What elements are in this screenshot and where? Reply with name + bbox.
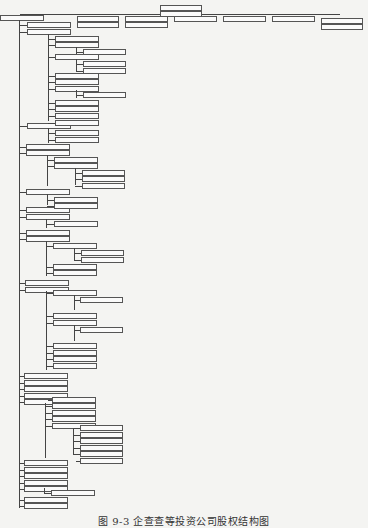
level2-node-box <box>54 203 98 209</box>
level3-connector <box>73 435 80 436</box>
branch-connector <box>19 25 27 26</box>
level3-connector <box>76 95 83 96</box>
level3-connector <box>76 71 83 72</box>
branch-node-box <box>27 29 71 35</box>
level3-connector <box>75 173 82 174</box>
level2-node-box <box>53 363 97 369</box>
header-node-box <box>321 24 363 30</box>
branch-connector <box>19 217 26 218</box>
level2-trunk-line <box>76 90 77 98</box>
level3-connector <box>76 64 83 65</box>
branch-node-box <box>24 386 68 392</box>
level2-connector <box>48 39 55 40</box>
level2-connector <box>48 140 55 141</box>
level2-node-box <box>52 416 96 422</box>
branch-connector <box>19 192 26 193</box>
level2-node-box <box>55 106 99 112</box>
branch-connector <box>19 239 26 240</box>
level2-node-box <box>55 79 99 85</box>
level3-node-box <box>83 49 126 55</box>
header-node-box <box>174 16 217 22</box>
branch-node-box <box>25 280 69 286</box>
level3-node-box <box>80 297 123 303</box>
level2-connector <box>48 89 55 90</box>
branch-node-box <box>26 189 70 195</box>
level2-node-box <box>54 163 98 169</box>
level2-connector <box>47 206 54 207</box>
level2-node-box <box>53 343 97 349</box>
level3-node-box <box>82 183 125 189</box>
level2-node-box <box>53 356 97 362</box>
level2-connector <box>48 123 55 124</box>
level2-connector <box>45 426 52 427</box>
level3-connector <box>75 179 82 180</box>
level3-node-box <box>80 451 123 457</box>
level2-connector <box>46 224 54 225</box>
level2-trunk-line <box>74 295 75 310</box>
level2-trunk-line <box>74 325 75 341</box>
level3-connector <box>73 428 80 429</box>
level2-node-box <box>51 490 95 496</box>
level3-node-box <box>83 92 126 98</box>
level3-connector <box>76 52 83 53</box>
level2-node-box <box>55 120 99 126</box>
level2-connector <box>46 246 53 247</box>
level3-node-box <box>80 425 123 431</box>
level3-node-box <box>80 438 123 444</box>
level2-connector <box>46 267 53 268</box>
level2-connector <box>44 493 51 494</box>
level2-node-box <box>53 290 97 296</box>
level3-connector <box>73 441 80 442</box>
level2-connector <box>46 366 53 367</box>
level2-connector <box>46 359 53 360</box>
branch-node-box <box>27 22 71 28</box>
level2-node-box <box>53 320 97 326</box>
level2-connector <box>48 109 55 110</box>
level2-connector <box>47 160 54 161</box>
level2-node-box <box>55 130 99 136</box>
level2-node-box <box>53 243 97 249</box>
level2-connector <box>46 273 53 274</box>
level2-connector <box>46 346 53 347</box>
branch-node-box <box>26 236 70 242</box>
level2-connector <box>45 413 52 414</box>
level3-node-box <box>83 61 126 67</box>
level2-connector <box>48 82 55 83</box>
level3-connector <box>75 186 82 187</box>
level2-connector <box>46 323 53 324</box>
level2-node-box <box>52 403 96 409</box>
level2-connector <box>48 57 55 58</box>
level2-connector <box>47 166 54 167</box>
level2-node-box <box>53 313 97 319</box>
level3-node-box <box>80 458 123 464</box>
level2-connector <box>45 419 52 420</box>
level2-connector <box>48 116 55 117</box>
sub-trunk-line <box>45 403 46 458</box>
level3-connector <box>74 260 81 261</box>
branch-connector <box>19 233 26 234</box>
level2-connector <box>46 316 53 317</box>
level2-node-box <box>54 221 98 227</box>
branch-node-box <box>24 503 68 509</box>
header-node-box <box>272 16 315 22</box>
level3-connector <box>73 454 80 455</box>
level3-connector <box>73 448 80 449</box>
level3-node-box <box>83 68 126 74</box>
level3-connector <box>74 253 81 254</box>
level2-connector <box>48 133 55 134</box>
level2-node-box <box>55 137 99 143</box>
level2-node-box <box>55 113 99 119</box>
level2-trunk-line <box>75 168 76 185</box>
header-node-box <box>125 22 168 28</box>
level3-node-box <box>82 176 125 182</box>
level3-node-box <box>81 257 124 263</box>
level2-connector <box>48 103 55 104</box>
level2-connector <box>47 200 54 201</box>
branch-connector <box>19 126 27 127</box>
branch-connector <box>19 32 27 33</box>
branch-connector <box>19 153 26 154</box>
main-trunk-line <box>19 20 20 508</box>
sub-trunk-line <box>48 34 49 121</box>
branch-node-box <box>24 460 68 466</box>
